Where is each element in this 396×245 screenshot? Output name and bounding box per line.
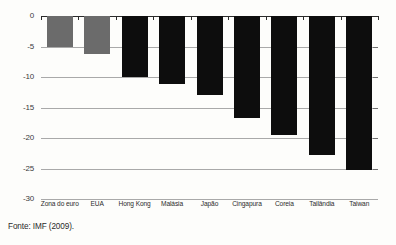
plot-area: 0-5-10-15-20-25-30 Zona do euroEUAHong K… [0,0,396,210]
axis-tick-mark [373,108,378,109]
axis-tick-mark [153,16,154,20]
bar [122,16,148,77]
bar [47,16,73,47]
axis-tick-mark [78,16,79,20]
bar [197,16,223,95]
bar [271,16,297,135]
axis-tick-mark [266,16,267,20]
bar [309,16,335,155]
y-axis-tick-label: 0 [8,11,34,20]
bar [84,16,110,54]
y-axis-tick-label: -15 [8,103,34,112]
gridline [41,169,378,170]
bar [159,16,185,84]
y-axis-tick-label: -20 [8,133,34,142]
bar [234,16,260,118]
axis-tick-mark [116,16,117,20]
axis-tick-mark [191,16,192,20]
bar [346,16,372,170]
axis-tick-mark [303,16,304,20]
axis-tick-mark [41,16,42,20]
axis-tick-mark [373,138,378,139]
axis-tick-mark [373,169,378,170]
y-axis-tick-label: -10 [8,72,34,81]
axis-tick-mark [228,16,229,20]
axis-tick-mark [341,16,342,20]
y-axis-tick-label: -25 [8,164,34,173]
y-axis-tick-label: -5 [8,42,34,51]
bar-chart-figure: 0-5-10-15-20-25-30 Zona do euroEUAHong K… [0,0,396,245]
axis-tick-mark [373,47,378,48]
axis-tick-mark [373,77,378,78]
x-axis-category-label: Taiwan [329,200,389,207]
axis-tick-mark [378,16,379,20]
source-note: Fonte: IMF (2009). [8,222,74,231]
